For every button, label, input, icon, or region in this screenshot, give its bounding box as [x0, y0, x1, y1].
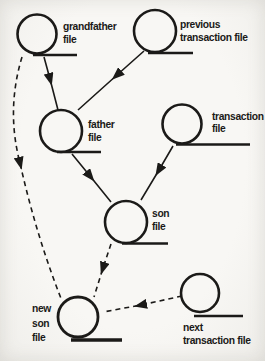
node-label: transaction [212, 111, 264, 122]
edge-next-transaction-to-new-son [103, 296, 182, 312]
node-label: new [32, 303, 52, 314]
edge-grandfather-to-new-son [13, 57, 62, 301]
node-label: father [88, 119, 115, 130]
node-son-file: son file [105, 201, 169, 244]
edge-transaction-to-son [141, 146, 173, 200]
node-label: next [183, 322, 204, 333]
node-father-file: father file [40, 110, 115, 152]
edges [13, 51, 182, 312]
tape-reel-icon [58, 297, 98, 337]
tape-reel-icon [181, 274, 219, 312]
node-label: son [32, 318, 49, 329]
node-label: file [63, 34, 77, 45]
node-label: transaction file [180, 32, 248, 43]
tape-reel-icon [105, 201, 147, 243]
tape-reel-icon [134, 10, 176, 52]
edge-previous-transaction-to-father [78, 51, 144, 110]
node-label: file [152, 221, 166, 232]
backup-rotation-diagram: grandfather file previous transaction fi… [0, 0, 265, 361]
node-label: file [212, 123, 226, 134]
node-label: file [88, 132, 102, 143]
node-label: previous [180, 19, 221, 30]
tape-reel-icon [18, 15, 57, 54]
tape-reel-icon [163, 105, 202, 144]
node-previous-transaction-file: previous transaction file [134, 10, 248, 53]
node-label: son [152, 208, 169, 219]
node-label: transaction file [183, 335, 251, 346]
node-new-son-file: new son file [32, 297, 122, 343]
edge-father-to-son [72, 154, 111, 202]
tape-reel-icon [40, 110, 82, 152]
edge-grandfather-to-father [44, 57, 58, 110]
node-transaction-file: transaction file [163, 105, 264, 145]
scanned-page: grandfather file previous transaction fi… [0, 0, 265, 361]
node-label: grandfather [63, 21, 117, 32]
edge-son-to-new-son [94, 244, 111, 297]
node-grandfather-file: grandfather file [18, 15, 117, 56]
node-label: file [32, 332, 46, 343]
node-next-transaction-file: next transaction file [181, 274, 251, 346]
